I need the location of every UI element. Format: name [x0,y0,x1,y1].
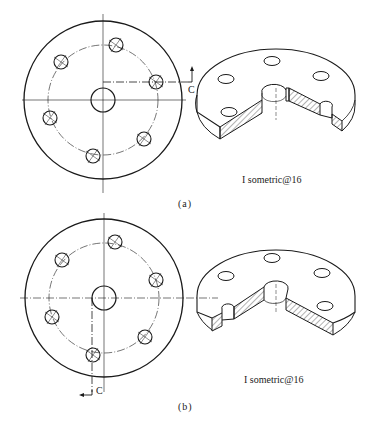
section-label-b: C [96,385,103,396]
caption-a: (a) [178,198,192,209]
section-label-a: C [188,84,195,95]
section-arrow-b [83,390,92,395]
technical-drawing [0,0,373,430]
top-view-a [22,14,194,193]
section-arrow-a [188,70,192,82]
top-view-b [20,213,186,397]
isometric-view-a [196,49,355,139]
caption-b: (b) [178,401,193,412]
isometric-view-b [186,250,355,335]
isometric-label-a: I sometric@16 [242,174,301,185]
isometric-label-b: I sometric@16 [244,374,303,385]
